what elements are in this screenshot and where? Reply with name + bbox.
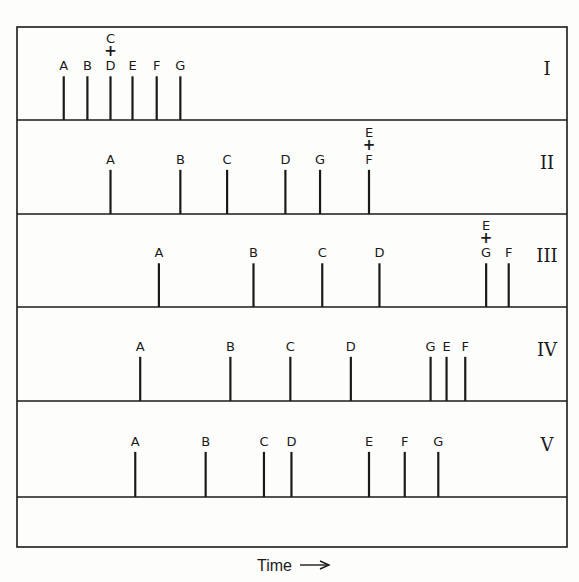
right-arrow-icon bbox=[300, 561, 329, 569]
peak-label: A bbox=[136, 339, 145, 354]
panel-I: IABD+CEFG bbox=[59, 31, 550, 120]
peak-label: D bbox=[280, 152, 290, 167]
peak-label: C bbox=[286, 339, 295, 354]
chromatogram-figure: IABD+CEFGIIABCDGF+EIIIABCDG+EFIVABCDGEFV… bbox=[0, 0, 579, 582]
time-axis-label: Time bbox=[257, 557, 292, 574]
peak-label: C bbox=[318, 245, 327, 260]
peak-label: G bbox=[433, 434, 443, 449]
peak-label: F bbox=[365, 152, 372, 167]
panel-label: V bbox=[540, 434, 555, 455]
peak-label: G bbox=[426, 339, 436, 354]
panel-label: I bbox=[543, 58, 550, 79]
peak-label: D bbox=[286, 434, 296, 449]
peak-label: B bbox=[249, 245, 258, 260]
peak-label: A bbox=[106, 152, 115, 167]
panel-label: II bbox=[540, 152, 554, 173]
panels: IABD+CEFGIIABCDGF+EIIIABCDG+EFIVABCDGEFV… bbox=[59, 31, 558, 497]
peak-label: B bbox=[226, 339, 235, 354]
panel-V: VABCDEFG bbox=[131, 434, 555, 497]
peak-label: B bbox=[176, 152, 185, 167]
peak-label: C bbox=[223, 152, 232, 167]
panel-IV: IVABCDGEF bbox=[136, 339, 558, 401]
peak-label: B bbox=[83, 58, 92, 73]
peak-label: E bbox=[365, 434, 373, 449]
peak-label: E bbox=[128, 58, 136, 73]
peak-label: F bbox=[401, 434, 408, 449]
peak-label: B bbox=[201, 434, 210, 449]
peak-label: F bbox=[505, 245, 512, 260]
peak-label: A bbox=[154, 245, 163, 260]
peak-label: E bbox=[442, 339, 450, 354]
peak-label: F bbox=[153, 58, 160, 73]
panel-label: IV bbox=[537, 339, 558, 360]
peak-label: G bbox=[175, 58, 185, 73]
peak-label: F bbox=[462, 339, 469, 354]
peak-label: G bbox=[315, 152, 325, 167]
time-axis: Time bbox=[257, 557, 329, 574]
peak-label: D bbox=[346, 339, 356, 354]
peak-label: A bbox=[59, 58, 68, 73]
peak-label: C bbox=[106, 31, 115, 46]
panel-label: III bbox=[536, 245, 557, 266]
panel-III: IIIABCDG+EF bbox=[154, 218, 557, 307]
peak-label: D bbox=[374, 245, 384, 260]
panel-II: IIABCDGF+E bbox=[106, 125, 554, 214]
peak-label: E bbox=[365, 125, 373, 140]
peak-label: D bbox=[105, 58, 115, 73]
peak-label: E bbox=[482, 218, 490, 233]
peak-label: G bbox=[481, 245, 491, 260]
peak-label: A bbox=[131, 434, 140, 449]
peak-label: C bbox=[259, 434, 268, 449]
